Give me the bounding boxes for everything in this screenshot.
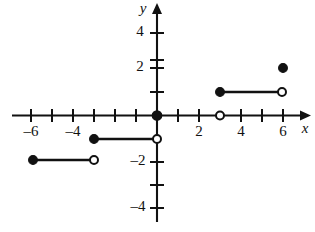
plot-area: –6 –4 2 4 6 4 2 –2 –4 y x — [0, 0, 315, 232]
closed-dot-0-0 — [152, 111, 162, 121]
x-axis-arrow-icon — [300, 111, 311, 121]
axes-group — [12, 3, 311, 222]
closed-dot--6--2 — [29, 156, 38, 165]
open-dot-0--1 — [153, 135, 161, 143]
x-tick-label-6: 6 — [279, 123, 287, 139]
closed-dot--3--1 — [90, 135, 99, 144]
closed-dot-6-2 — [279, 64, 288, 73]
open-dot-3-0 — [216, 112, 224, 120]
x-tick-label-4: 4 — [237, 123, 245, 139]
y-axis-arrow-icon — [152, 3, 162, 14]
step-function-graph: –6 –4 2 4 6 4 2 –2 –4 y x — [0, 0, 315, 232]
y-tick-label--2: –2 — [130, 152, 146, 168]
y-axis-label: y — [138, 0, 147, 16]
closed-dot-3-1 — [216, 88, 225, 97]
open-dot-6-1 — [278, 88, 286, 96]
y-tick-label-4: 4 — [136, 23, 144, 39]
x-tick-label-2: 2 — [195, 123, 203, 139]
y-tick-labels: 4 2 –2 –4 — [130, 23, 147, 214]
x-tick-label--6: –6 — [23, 123, 40, 139]
x-tick-label--4: –4 — [65, 123, 82, 139]
y-tick-label-2: 2 — [136, 58, 144, 74]
x-axis-label: x — [301, 120, 309, 136]
open-dot--3--2 — [90, 156, 98, 164]
y-tick-label--4: –4 — [130, 198, 147, 214]
